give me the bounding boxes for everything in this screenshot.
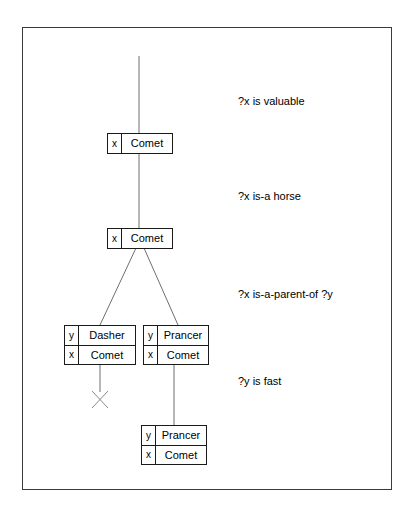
binding-variable: y (65, 326, 79, 345)
binding-value: Comet (79, 346, 135, 364)
binding-row: x Comet (65, 345, 135, 364)
goal-label-is-fast: ?y is fast (238, 376, 281, 387)
binding-variable: y (142, 426, 156, 445)
figure-frame (22, 27, 392, 490)
binding-value: Comet (158, 346, 208, 364)
binding-row: y Prancer (142, 426, 206, 445)
binding-row: x Comet (142, 445, 206, 464)
binding-value: Prancer (156, 426, 206, 445)
binding-value: Comet (156, 446, 206, 464)
binding-node-comet-valuable[interactable]: x Comet (107, 133, 173, 154)
binding-row: x Comet (144, 345, 208, 364)
binding-value: Dasher (79, 326, 135, 345)
binding-row: y Dasher (65, 326, 135, 345)
goal-label-valuable: ?x is valuable (238, 96, 305, 107)
binding-value: Comet (122, 229, 172, 248)
binding-row: x Comet (108, 134, 172, 153)
binding-variable: x (144, 346, 158, 364)
binding-node-comet-horse[interactable]: x Comet (107, 228, 173, 249)
binding-variable: x (65, 346, 79, 364)
proof-tree-figure: x Comet x Comet y Dasher x Comet y Pranc… (0, 0, 412, 516)
binding-row: y Prancer (144, 326, 208, 345)
goal-label-is-a-horse: ?x is-a horse (238, 191, 301, 202)
binding-node-prancer[interactable]: y Prancer x Comet (143, 325, 209, 365)
binding-variable: x (142, 446, 156, 464)
binding-variable: y (144, 326, 158, 345)
goal-label-is-a-parent-of: ?x is-a-parent-of ?y (238, 289, 333, 300)
binding-value: Comet (122, 134, 172, 153)
binding-variable: x (108, 229, 122, 248)
binding-node-dasher[interactable]: y Dasher x Comet (64, 325, 136, 365)
binding-node-prancer-fast[interactable]: y Prancer x Comet (141, 425, 207, 465)
binding-row: x Comet (108, 229, 172, 248)
binding-variable: x (108, 134, 122, 153)
binding-value: Prancer (158, 326, 208, 345)
